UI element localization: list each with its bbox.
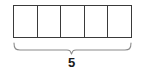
bar-cell bbox=[85, 6, 109, 37]
brace-total-label: 5 bbox=[0, 55, 143, 70]
bar-cell bbox=[38, 6, 62, 37]
bar-cell bbox=[61, 6, 85, 37]
bar-cell bbox=[14, 6, 38, 37]
curly-brace-icon bbox=[0, 40, 143, 56]
bar-cell bbox=[108, 6, 131, 37]
brace-container bbox=[0, 40, 143, 56]
bar-model-strip bbox=[13, 5, 132, 38]
bar-model-diagram: 5 bbox=[0, 0, 143, 74]
